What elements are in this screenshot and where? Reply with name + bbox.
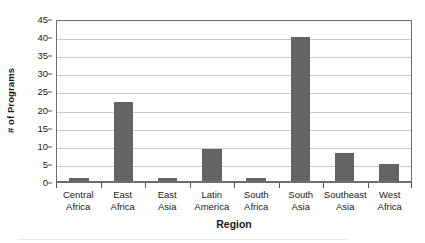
x-axis-category-label: CentralAfrica: [56, 189, 101, 219]
x-axis-category-label-line2: Africa: [56, 201, 101, 213]
axis-baseline: [57, 181, 411, 182]
y-axis-tick-labels: 051015202530354045: [24, 20, 52, 183]
y-axis-title-text: # of Programs: [6, 67, 17, 132]
bar-slot: [323, 21, 367, 182]
x-axis-tickmark: [56, 183, 57, 188]
y-axis-tick-label: 30: [37, 70, 48, 80]
x-axis-category-label-line1: South: [288, 189, 313, 200]
y-axis-tickmark: [48, 146, 52, 147]
bar-series: [57, 21, 411, 182]
y-axis-tickmark: [48, 92, 52, 93]
y-axis-tick-label: 10: [37, 142, 48, 152]
y-axis-tick-label: 25: [37, 88, 48, 98]
bar-chart: # of Programs 051015202530354045 Central…: [0, 0, 425, 243]
bar: [202, 149, 221, 182]
y-axis-tickmark: [48, 128, 52, 129]
x-axis-tickmark: [368, 183, 369, 188]
x-axis-category-label: EastAsia: [145, 189, 190, 219]
x-axis-tickmark: [190, 183, 191, 188]
x-axis-tickmarks: [56, 183, 412, 188]
x-axis-category-label: SouthAfrica: [234, 189, 279, 219]
x-axis-category-label-line1: Central: [63, 189, 94, 200]
y-axis-tickmark: [48, 110, 52, 111]
x-axis-category-label-line2: Africa: [101, 201, 146, 213]
bar: [114, 102, 133, 182]
x-axis-category-label-line1: Latin: [201, 189, 222, 200]
scan-artifact-line: [18, 239, 348, 240]
x-axis-tickmark: [145, 183, 146, 188]
bar-slot: [146, 21, 190, 182]
y-axis-tick-label: 45: [37, 15, 48, 25]
plot-area: [56, 20, 412, 183]
bar-slot: [101, 21, 145, 182]
y-axis-tickmark: [48, 56, 52, 57]
bar: [379, 164, 398, 182]
x-axis-tickmark: [279, 183, 280, 188]
x-axis-category-label: WestAfrica: [368, 189, 413, 219]
x-axis-tickmark: [101, 183, 102, 188]
x-axis-category-label: EastAfrica: [101, 189, 146, 219]
bar-slot: [367, 21, 411, 182]
x-axis-category-label-line1: West: [379, 189, 400, 200]
y-axis-title: # of Programs: [0, 0, 22, 200]
bar: [291, 37, 310, 182]
y-axis-tickmark: [48, 164, 52, 165]
x-axis-category-labels: CentralAfricaEastAfricaEastAsiaLatinAmer…: [56, 189, 412, 219]
x-axis-category-label: LatinAmerica: [190, 189, 235, 219]
bar-slot: [190, 21, 234, 182]
x-axis-tickmark: [234, 183, 235, 188]
bar-slot: [278, 21, 322, 182]
bar: [335, 153, 354, 182]
x-axis-category-label-line2: Africa: [234, 201, 279, 213]
y-axis-tickmark: [48, 38, 52, 39]
x-axis-category-label: SouthAsia: [279, 189, 324, 219]
y-axis-tick-label: 15: [37, 124, 48, 134]
y-axis-tickmark: [48, 183, 52, 184]
x-axis-category-label-line2: America: [190, 201, 235, 213]
x-axis-tickmark: [323, 183, 324, 188]
x-axis-category-label-line2: Asia: [279, 201, 324, 213]
x-axis-category-label-line1: East: [158, 189, 177, 200]
bar-slot: [234, 21, 278, 182]
y-axis-tick-label: 40: [37, 33, 48, 43]
x-axis-category-label-line2: Africa: [368, 201, 413, 213]
x-axis-category-label: SoutheastAsia: [323, 189, 368, 219]
y-axis-tickmark: [48, 20, 52, 21]
x-axis-tickmark: [411, 183, 412, 188]
x-axis-category-label-line1: Southeast: [324, 189, 367, 200]
y-axis-tick-label: 20: [37, 106, 48, 116]
x-axis-category-label-line2: Asia: [323, 201, 368, 213]
bar-slot: [57, 21, 101, 182]
x-axis-category-label-line2: Asia: [145, 201, 190, 213]
x-axis-category-label-line1: East: [113, 189, 132, 200]
x-axis-category-label-line1: South: [244, 189, 269, 200]
x-axis-title: Region: [56, 218, 412, 230]
y-axis-tick-label: 35: [37, 51, 48, 61]
y-axis-tickmark: [48, 74, 52, 75]
